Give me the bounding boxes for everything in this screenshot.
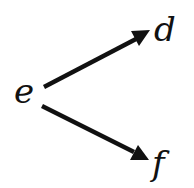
edge-e-to-f xyxy=(42,106,149,160)
node-e-label: e xyxy=(14,74,34,108)
edge-e-to-d xyxy=(44,30,150,87)
node-f-label: f xyxy=(152,146,165,180)
node-d-label: d xyxy=(154,12,176,46)
tree-diagram: e d f xyxy=(0,0,194,188)
